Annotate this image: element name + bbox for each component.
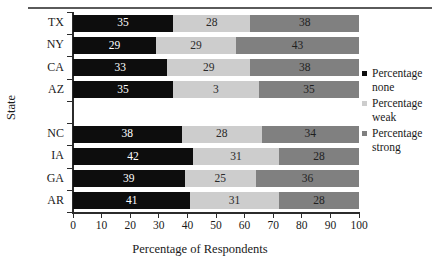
x-tick: [158, 213, 159, 218]
bar-segment-strong: 35: [259, 81, 359, 98]
x-tick-label: 10: [87, 219, 117, 232]
legend-label-strong-line1: Percentage: [372, 126, 442, 140]
x-tick-label: 50: [201, 219, 231, 232]
x-tick-label: 20: [115, 219, 145, 232]
legend-label-strong-line2: strong: [372, 140, 442, 154]
bar-segment-strong: 38: [250, 59, 359, 76]
legend-swatch-strong-icon: [362, 131, 367, 136]
x-tick: [330, 213, 331, 218]
y-tick-label-tx: TX: [0, 16, 64, 29]
bar-segment-none: 38: [73, 126, 182, 143]
bar-segment-weak: 29: [167, 59, 250, 76]
header-divider: [28, 7, 432, 9]
x-tick: [216, 213, 217, 218]
legend-label-weak-line2: weak: [372, 110, 442, 124]
bar-segment-none: 42: [73, 148, 193, 165]
x-tick-label: 30: [144, 219, 174, 232]
y-tick-label-ia: IA: [0, 149, 64, 162]
y-axis-title: State: [4, 73, 19, 143]
x-tick: [187, 213, 188, 218]
bar-segment-none: 35: [73, 15, 173, 32]
legend-item-weak: Percentage weak: [362, 96, 442, 124]
y-tick: [67, 212, 72, 213]
legend-item-strong: Percentage strong: [362, 126, 442, 154]
bar-row: 392536: [73, 170, 359, 187]
bar-row: 35335: [73, 81, 359, 98]
bar-row: 352838: [73, 15, 359, 32]
legend-label-none-line1: Percentage: [372, 66, 442, 80]
x-tick-label: 40: [172, 219, 202, 232]
bar-segment-weak: 31: [190, 192, 279, 209]
legend-label-none-line2: none: [372, 80, 442, 94]
bar-segment-weak: 25: [185, 170, 257, 187]
x-tick: [273, 213, 274, 218]
x-axis-title: Percentage of Respondents: [0, 242, 400, 257]
bar-segment-strong: 36: [256, 170, 359, 187]
bar-segment-none: 41: [73, 192, 190, 209]
y-tick: [67, 145, 72, 146]
legend-swatch-none-icon: [362, 71, 367, 76]
x-tick: [301, 213, 302, 218]
y-tick: [67, 123, 72, 124]
bar-row: 292943: [73, 37, 359, 54]
bar-segment-none: 29: [73, 37, 156, 54]
bar-segment-strong: 28: [279, 148, 359, 165]
x-tick: [130, 213, 131, 218]
bar-segment-strong: 34: [262, 126, 359, 143]
x-tick-label: 70: [258, 219, 288, 232]
y-tick: [67, 190, 72, 191]
bar-segment-weak: 31: [193, 148, 279, 165]
legend-item-none: Percentage none: [362, 66, 442, 94]
x-tick-label: 90: [315, 219, 345, 232]
bar-segment-weak: 28: [182, 126, 262, 143]
plot-area: 3528382929433329383533538283442312839253…: [73, 12, 359, 212]
bar-segment-none: 39: [73, 170, 185, 187]
bar-segment-strong: 38: [250, 15, 359, 32]
x-tick: [101, 213, 102, 218]
bar-segment-none: 35: [73, 81, 173, 98]
bar-row: 413128: [73, 192, 359, 209]
y-tick: [67, 34, 72, 35]
y-tick: [67, 101, 72, 102]
legend-swatch-weak-icon: [362, 101, 367, 106]
x-tick: [359, 213, 360, 218]
y-tick: [67, 79, 72, 80]
bar-row: 423128: [73, 148, 359, 165]
bar-row: 382834: [73, 126, 359, 143]
x-tick: [244, 213, 245, 218]
chart-legend: Percentage none Percentage weak Percenta…: [362, 66, 442, 156]
bar-row: 332938: [73, 59, 359, 76]
y-tick-label-ar: AR: [0, 194, 64, 207]
bar-segment-strong: 43: [236, 37, 359, 54]
y-tick: [67, 56, 72, 57]
y-tick-label-ga: GA: [0, 172, 64, 185]
x-tick: [73, 213, 74, 218]
y-tick-label-ny: NY: [0, 38, 64, 51]
bar-segment-none: 33: [73, 59, 167, 76]
bar-segment-strong: 28: [279, 192, 359, 209]
y-tick: [67, 12, 72, 13]
legend-label-weak-line1: Percentage: [372, 96, 442, 110]
bar-segment-weak: 3: [173, 81, 259, 98]
x-tick-label: 0: [58, 219, 88, 232]
y-tick: [67, 168, 72, 169]
bar-segment-weak: 28: [173, 15, 250, 32]
stacked-bar-chart: TXNYCAAZNCIAGAAR State 01020304050607080…: [0, 0, 442, 278]
bar-segment-weak: 29: [156, 37, 236, 54]
x-tick-label: 100: [344, 219, 374, 232]
x-tick-label: 60: [230, 219, 260, 232]
x-tick-label: 80: [287, 219, 317, 232]
